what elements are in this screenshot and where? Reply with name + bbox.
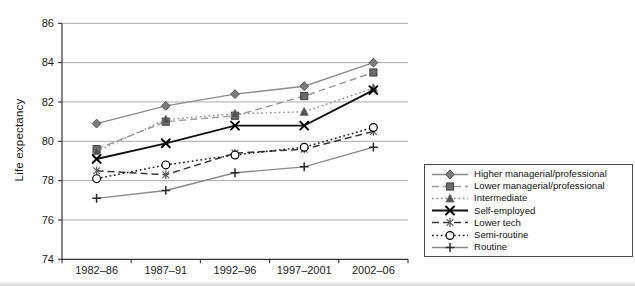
circle-marker bbox=[370, 124, 378, 132]
x-tick-label: 1992–96 bbox=[214, 264, 257, 276]
legend-label: Lower tech bbox=[474, 217, 521, 229]
legend-item: Lower tech bbox=[431, 217, 628, 229]
y-tick-label: 80 bbox=[42, 135, 54, 147]
y-tick-label: 82 bbox=[42, 96, 54, 108]
y-tick-label: 78 bbox=[42, 174, 54, 186]
circle-marker bbox=[162, 161, 170, 169]
legend-key bbox=[431, 242, 469, 253]
square-marker bbox=[446, 183, 453, 190]
legend-label: Routine bbox=[474, 241, 507, 253]
y-tick-label: 74 bbox=[42, 253, 54, 265]
plus-marker bbox=[446, 243, 455, 252]
triangle-marker bbox=[446, 194, 454, 202]
square-marker bbox=[370, 69, 377, 76]
legend-key bbox=[431, 193, 469, 204]
x-tick-label: 1997–2001 bbox=[277, 264, 332, 276]
legend-item: Self-employed bbox=[431, 205, 628, 217]
scan-artifact bbox=[0, 281, 635, 286]
y-tick-label: 76 bbox=[42, 214, 54, 226]
x-tick-label: 1987–91 bbox=[144, 264, 187, 276]
y-axis-label: Life expectancy bbox=[13, 85, 25, 195]
legend-item: Intermediate bbox=[431, 192, 628, 204]
diamond-marker bbox=[161, 102, 170, 111]
diamond-marker bbox=[92, 119, 101, 128]
legend-key bbox=[431, 181, 469, 192]
legend-label: Self-employed bbox=[474, 205, 535, 217]
diamond-marker bbox=[446, 170, 455, 179]
legend-label: Higher managerial/professional bbox=[474, 168, 607, 180]
legend-item: Semi-routine bbox=[431, 229, 628, 241]
legend-label: Intermediate bbox=[474, 192, 527, 204]
diamond-marker bbox=[300, 82, 309, 91]
circle-marker bbox=[446, 231, 454, 239]
plus-marker bbox=[300, 162, 309, 171]
circle-marker bbox=[93, 175, 101, 183]
plus-marker bbox=[369, 143, 378, 152]
y-tick-label: 84 bbox=[42, 56, 54, 68]
legend-label: Lower managerial/professional bbox=[474, 180, 605, 192]
legend-key bbox=[431, 230, 469, 241]
diamond-marker bbox=[231, 90, 240, 99]
legend-label: Semi-routine bbox=[474, 229, 528, 241]
legend-key bbox=[431, 205, 469, 216]
legend-key bbox=[431, 169, 469, 180]
figure: 747678808284861982–861987–911992–961997–… bbox=[0, 0, 635, 286]
diamond-marker bbox=[369, 58, 378, 67]
legend-item: Higher managerial/professional bbox=[431, 168, 628, 180]
circle-marker bbox=[300, 143, 308, 151]
legend-item: Routine bbox=[431, 241, 628, 253]
x-tick-label: 2002–06 bbox=[352, 264, 395, 276]
legend: Higher managerial/professionalLower mana… bbox=[424, 164, 633, 257]
square-marker bbox=[301, 92, 308, 99]
plus-marker bbox=[161, 186, 170, 195]
y-tick-label: 86 bbox=[42, 17, 54, 29]
circle-marker bbox=[231, 151, 239, 159]
legend-item: Lower managerial/professional bbox=[431, 180, 628, 192]
plus-marker bbox=[231, 168, 240, 177]
x-tick-label: 1982–86 bbox=[75, 264, 118, 276]
plus-marker bbox=[92, 194, 101, 203]
legend-key bbox=[431, 217, 469, 228]
